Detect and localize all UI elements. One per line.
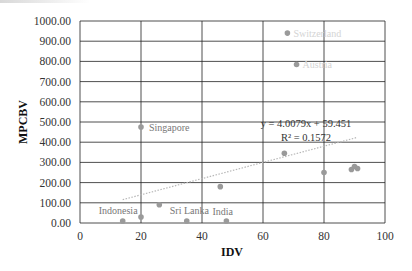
x-tick-label: 60 (257, 230, 269, 242)
point-label: Indonesia (99, 205, 138, 216)
data-point (184, 218, 190, 224)
data-point (224, 218, 230, 224)
trendline-r-squared: R² = 0.1572 (281, 132, 331, 143)
point-label: Singapore (149, 122, 190, 133)
y-tick-label: 900.00 (39, 35, 71, 47)
y-tick-label: 200.00 (39, 177, 71, 189)
scatter-chart: 0.00100.00200.00300.00400.00500.00600.00… (0, 0, 412, 271)
trendline (123, 137, 358, 199)
point-label: Switzerland (293, 28, 341, 39)
data-point (157, 202, 163, 208)
x-axis-title: IDV (221, 245, 243, 259)
y-tick-label: 1000.00 (34, 15, 72, 27)
x-tick-label: 20 (135, 230, 147, 242)
data-point (218, 184, 224, 190)
data-point (285, 30, 291, 36)
x-axis-ticks: 020406080100 (77, 230, 394, 242)
point-label: Austria (303, 59, 333, 70)
x-tick-label: 40 (196, 230, 208, 242)
data-point (282, 151, 288, 157)
point-label: Sri Lanka (170, 205, 210, 216)
y-tick-label: 600.00 (39, 96, 71, 108)
y-tick-label: 0.00 (51, 217, 71, 229)
y-tick-label: 100.00 (39, 197, 71, 209)
x-tick-label: 100 (376, 230, 394, 242)
data-point (138, 124, 144, 130)
y-axis-title: MPCBV (16, 100, 30, 144)
data-point (321, 170, 327, 176)
y-axis-ticks: 0.00100.00200.00300.00400.00500.00600.00… (34, 15, 72, 229)
data-point (138, 214, 144, 220)
trendline-equation: y = 4.0079x + 59.451 (261, 118, 352, 129)
point-label: India (212, 206, 233, 217)
y-tick-label: 800.00 (39, 55, 71, 67)
x-tick-label: 0 (77, 230, 83, 242)
data-point (294, 62, 300, 68)
data-point (355, 166, 361, 172)
x-tick-label: 80 (318, 230, 330, 242)
data-point (120, 218, 126, 224)
y-tick-label: 400.00 (39, 136, 71, 148)
y-tick-label: 500.00 (39, 116, 71, 128)
y-tick-label: 700.00 (39, 76, 71, 88)
y-tick-label: 300.00 (39, 156, 71, 168)
